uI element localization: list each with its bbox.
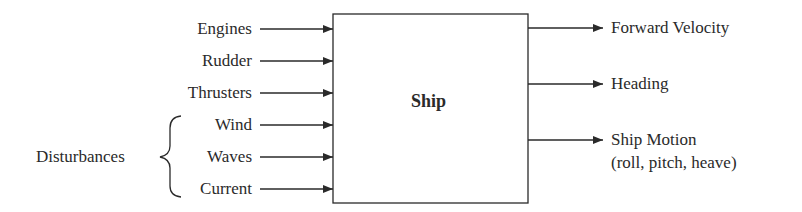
output-arrows xyxy=(528,28,603,140)
input-label-wind: Wind xyxy=(92,115,252,135)
input-label-current: Current xyxy=(92,179,252,199)
output-label-heading: Heading xyxy=(611,74,669,94)
input-label-rudder: Rudder xyxy=(92,51,252,71)
input-arrows xyxy=(260,29,333,189)
disturbances-label: Disturbances xyxy=(36,147,125,167)
ship-system-block-diagram: Engines Rudder Thrusters Wind Waves Curr… xyxy=(0,0,802,212)
ship-block-label: Ship xyxy=(411,91,446,111)
output-sublabel-ship-motion: (roll, pitch, heave) xyxy=(611,153,737,173)
output-label-ship-motion: Ship Motion xyxy=(611,130,697,150)
input-label-engines: Engines xyxy=(92,19,252,39)
input-label-thrusters: Thrusters xyxy=(92,83,252,103)
output-label-forward-velocity: Forward Velocity xyxy=(611,18,729,38)
